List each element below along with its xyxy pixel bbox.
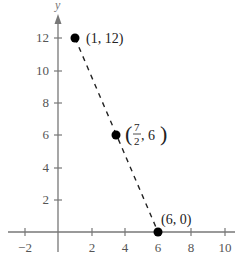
x-tick-label: 6 xyxy=(155,240,162,255)
point-label-6-0: (6, 0) xyxy=(161,212,192,228)
x-tick-label: −2 xyxy=(18,240,32,255)
point-6-0 xyxy=(154,228,163,237)
y-tick-label: 12 xyxy=(36,30,49,45)
y-axis-label: y xyxy=(54,0,61,12)
chart: y −2 2 4 6 8 10 2 4 6 8 10 12 (1, 12) ( … xyxy=(0,0,235,257)
x-tick-label: 8 xyxy=(188,240,195,255)
point-label-1-12: (1, 12) xyxy=(86,31,124,47)
x-tick-label: 2 xyxy=(89,240,96,255)
x-tick-label: 10 xyxy=(219,240,232,255)
svg-text:): ) xyxy=(160,121,167,146)
svg-text:(: ( xyxy=(125,121,132,146)
point-label-7-2-6: ( 7 2 , 6 ) xyxy=(125,121,167,147)
y-tick-label: 2 xyxy=(43,192,50,207)
y-axis-arrow-icon xyxy=(55,14,62,24)
point-1-12 xyxy=(71,34,80,43)
y-tick-label: 4 xyxy=(43,160,50,175)
y-tick-label: 8 xyxy=(43,95,50,110)
x-tick-label: 4 xyxy=(122,240,129,255)
y-tick-label: 10 xyxy=(36,63,49,78)
svg-text:7: 7 xyxy=(134,121,140,133)
point-7-2-6 xyxy=(112,131,121,140)
y-tick-label: 6 xyxy=(43,127,50,142)
svg-text:2: 2 xyxy=(134,135,140,147)
svg-text:, 6: , 6 xyxy=(141,128,155,143)
